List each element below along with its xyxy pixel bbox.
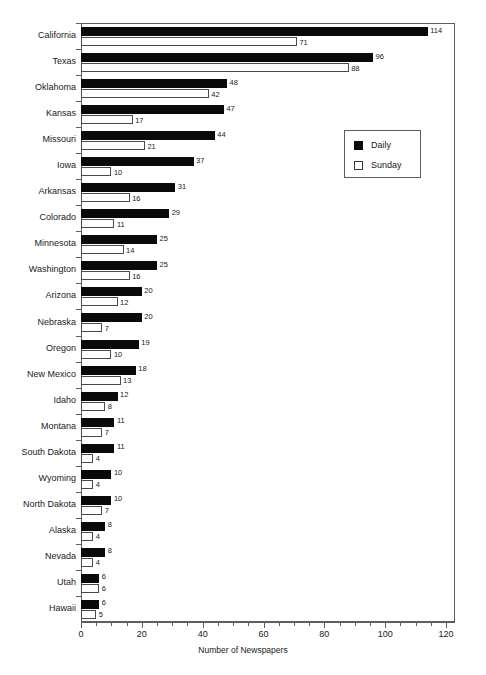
bar-group-row: 2514 [81,231,455,257]
bar-daily [81,600,99,609]
legend-item-sunday: Sunday [354,159,402,171]
bar-sunday [81,480,93,489]
bar-daily [81,366,136,375]
bar-value-label: 12 [120,390,128,399]
bar-sunday [81,271,130,280]
bar-value-label: 10 [114,168,122,177]
category-label-nevada: Nevada [45,551,76,562]
category-label-north-dakota: North Dakota [23,499,76,510]
bar-sunday [81,245,124,254]
x-axis-minor-tick [309,623,310,626]
x-axis-major-tick [385,623,386,628]
bar-value-label: 37 [196,156,204,165]
x-axis-major-tick [142,623,143,628]
bar-group-row: 2516 [81,257,455,283]
category-tick [76,231,81,232]
bar-group-row: 9688 [81,49,455,75]
x-axis-tick-label: 100 [378,629,393,640]
x-axis-minor-tick [218,623,219,626]
category-label-utah: Utah [57,577,76,588]
bar-value-label: 8 [108,402,112,411]
bar-value-label: 8 [108,546,112,555]
category-label-nebraska: Nebraska [37,317,76,328]
bar-value-label: 16 [132,272,140,281]
category-label-arkansas: Arkansas [38,186,76,197]
bar-group-row: 2012 [81,283,455,309]
category-tick [76,362,81,363]
x-axis-minor-tick [172,623,173,626]
bar-daily [81,27,428,36]
bar-value-label: 4 [96,480,100,489]
category-label-washington: Washington [29,264,76,275]
x-axis-minor-tick [294,623,295,626]
category-tick [76,440,81,441]
x-axis-major-tick [324,623,325,628]
category-tick [76,49,81,50]
bar-daily [81,209,169,218]
bar-group-row: 66 [81,570,455,596]
category-label-arizona: Arizona [45,290,76,301]
category-tick [76,283,81,284]
bar-group-row: 117 [81,414,455,440]
bar-daily [81,392,118,401]
bar-sunday [81,610,96,619]
bar-value-label: 4 [96,558,100,567]
bar-daily [81,574,99,583]
bar-sunday [81,376,121,385]
bar-daily [81,444,114,453]
bar-sunday [81,167,111,176]
bar-value-label: 5 [99,610,103,619]
bar-sunday [81,402,105,411]
bar-sunday [81,454,93,463]
category-tick [76,257,81,258]
category-tick [76,309,81,310]
bar-group-row: 1813 [81,362,455,388]
bar-group-row: 128 [81,388,455,414]
bar-value-label: 7 [105,428,109,437]
category-label-south-dakota: South Dakota [21,447,76,458]
x-axis-line [81,622,455,623]
bar-group-row: 11471 [81,23,455,49]
bar-sunday [81,558,93,567]
bar-value-label: 21 [147,142,155,151]
legend-item-daily: Daily [354,139,391,151]
legend-swatch-sunday-icon [354,161,363,170]
x-axis-minor-tick [400,623,401,626]
bar-sunday [81,141,145,150]
category-tick [76,179,81,180]
category-axis-labels: CaliforniaTexasOklahomaKansasMissouriIow… [0,23,76,622]
bar-daily [81,313,142,322]
x-axis-tick-label: 0 [78,629,83,640]
bar-value-label: 12 [120,298,128,307]
x-axis-minor-tick [127,623,128,626]
bar-sunday [81,428,102,437]
x-axis-title: Number of Newspapers [0,645,486,656]
x-axis-minor-tick [187,623,188,626]
category-label-wyoming: Wyoming [39,473,76,484]
category-label-iowa: Iowa [57,160,76,171]
bar-value-label: 44 [217,130,225,139]
category-tick [76,492,81,493]
bar-daily [81,287,142,296]
bar-group-row: 4842 [81,75,455,101]
bar-daily [81,131,215,140]
bar-value-label: 7 [105,324,109,333]
bar-group-row: 3116 [81,179,455,205]
bar-sunday [81,219,114,228]
category-label-alaska: Alaska [49,525,76,536]
bar-value-label: 11 [117,220,125,229]
x-axis-major-tick [203,623,204,628]
bar-daily [81,235,157,244]
bar-value-label: 8 [108,520,112,529]
category-label-minnesota: Minnesota [34,238,76,249]
category-tick [76,23,81,24]
bar-group-row: 104 [81,466,455,492]
bar-sunday [81,37,297,46]
x-axis-minor-tick [431,623,432,626]
bar-group-row: 1910 [81,336,455,362]
category-label-kansas: Kansas [46,108,76,119]
category-label-oklahoma: Oklahoma [35,82,76,93]
category-tick [76,205,81,206]
bar-daily [81,79,227,88]
x-axis-minor-tick [279,623,280,626]
